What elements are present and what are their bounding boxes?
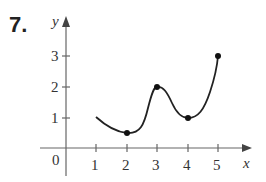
x-tick-label: 1 xyxy=(91,157,99,173)
y-tick-label: 2 xyxy=(51,79,59,95)
y-axis-arrow-icon xyxy=(62,16,70,27)
point-3-2 xyxy=(154,84,160,90)
x-axis-label: x xyxy=(242,155,250,171)
function-graph: 1 2 3 4 5 0 1 2 3 x y xyxy=(0,0,266,182)
marked-points xyxy=(124,53,221,136)
point-2-0.5 xyxy=(124,130,130,136)
point-5-3 xyxy=(215,53,221,59)
y-tick-label: 3 xyxy=(51,48,59,64)
axes xyxy=(40,22,246,176)
point-4-1 xyxy=(185,115,191,121)
x-tick-label: 2 xyxy=(122,157,130,173)
y-axis-label: y xyxy=(50,13,59,29)
y-tick-label: 1 xyxy=(51,110,59,126)
x-axis-arrow-icon xyxy=(242,144,252,152)
x-tick-label: 5 xyxy=(213,157,221,173)
x-tick-label: 3 xyxy=(152,157,160,173)
function-curve xyxy=(96,56,218,133)
x-tick-label: 4 xyxy=(183,157,191,173)
origin-label: 0 xyxy=(52,152,60,168)
